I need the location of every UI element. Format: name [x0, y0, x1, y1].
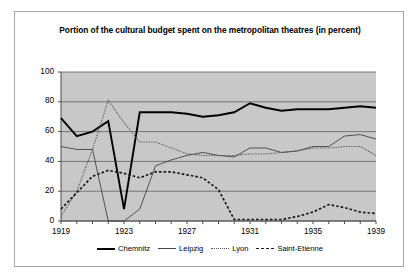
y-axis-tick-label: 60	[30, 126, 54, 135]
legend-label: Lyon	[232, 244, 248, 253]
y-axis-tick-label: 80	[30, 96, 54, 105]
y-axis-tick-label: 0	[30, 216, 54, 225]
x-axis-tick-label: 1931	[233, 227, 267, 236]
x-axis-tick-label: 1927	[170, 227, 204, 236]
x-axis-tick-label: 1923	[107, 227, 141, 236]
plot-area: 020406080100191919231927193119351939	[15, 12, 404, 267]
legend-item-chemnitz[interactable]: Chemnitz	[97, 244, 150, 253]
x-axis-tick-label: 1935	[296, 227, 330, 236]
legend-label: Leipzig	[179, 244, 203, 253]
legend-item-leipzig[interactable]: Leipzig	[158, 244, 203, 253]
chart-figure: Portion of the cultural budget spent on …	[14, 11, 404, 267]
legend-label: Chemnitz	[118, 244, 150, 253]
y-axis-tick-label: 20	[30, 186, 54, 195]
legend-swatch-saint-etienne	[256, 245, 274, 252]
y-axis-tick-label: 40	[30, 156, 54, 165]
legend-item-lyon[interactable]: Lyon	[211, 244, 248, 253]
y-axis-tick-label: 100	[30, 67, 54, 76]
x-axis-tick-label: 1939	[359, 227, 393, 236]
legend-label: Saint-Etienne	[277, 244, 323, 253]
x-axis-tick-label: 1919	[44, 227, 78, 236]
legend-swatch-leipzig	[158, 245, 176, 252]
legend-item-saint-etienne[interactable]: Saint-Etienne	[256, 244, 323, 253]
chart-legend: ChemnitzLeipzigLyonSaint-Etienne	[15, 244, 404, 253]
legend-swatch-lyon	[211, 245, 229, 252]
legend-swatch-chemnitz	[97, 245, 115, 252]
